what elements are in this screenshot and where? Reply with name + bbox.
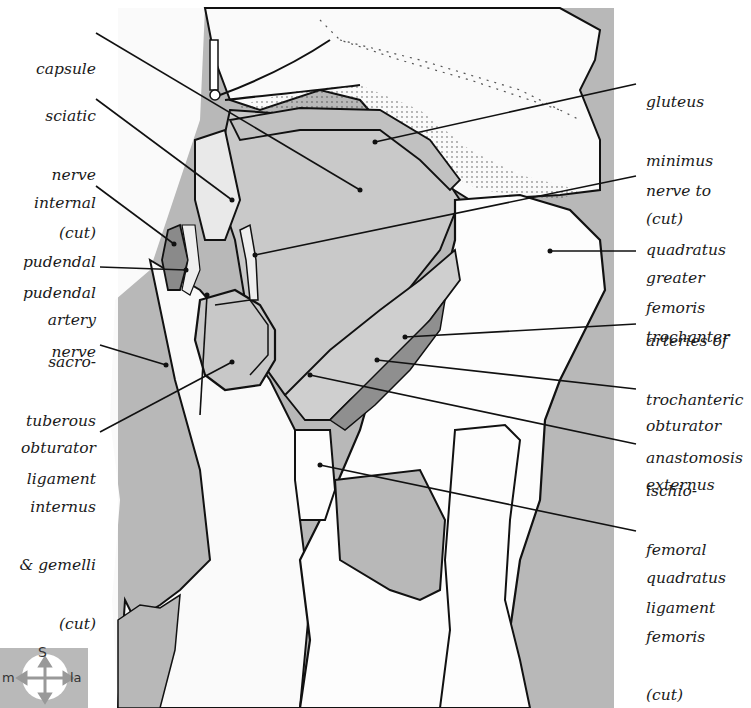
orientation-compass: S m la xyxy=(0,648,88,708)
anatomy-figure: capsule sciatic nerve (cut) internal pud… xyxy=(0,0,751,708)
compass-medial: m xyxy=(2,670,15,685)
label-line: quadratus xyxy=(646,569,726,589)
label-line: sacro- xyxy=(26,353,96,373)
label-line: internal xyxy=(23,194,96,214)
label-line: arteries of xyxy=(646,332,743,352)
compass-superior: S xyxy=(38,644,47,660)
label-quadratus-femoris: quadratus femoris (cut) xyxy=(646,530,726,708)
compass-lateral: la xyxy=(70,670,82,685)
label-line: gluteus xyxy=(646,93,713,113)
label-line: (cut) xyxy=(646,686,726,706)
hip-joint-illustration xyxy=(0,0,751,708)
label-obturator-internus-gemelli: obturator internus & gemelli (cut) xyxy=(19,400,96,673)
label-line: (cut) xyxy=(19,615,96,635)
label-line: internus xyxy=(19,498,96,518)
label-line: pudendal xyxy=(23,284,96,304)
label-line: greater xyxy=(646,269,730,289)
label-line: sciatic xyxy=(45,107,96,127)
label-line: femoris xyxy=(646,628,726,648)
label-line: obturator xyxy=(646,417,721,437)
label-line: ischio- xyxy=(646,482,715,502)
label-line: obturator xyxy=(19,439,96,459)
label-line: & gemelli xyxy=(19,556,96,576)
label-line: nerve to xyxy=(646,182,726,202)
